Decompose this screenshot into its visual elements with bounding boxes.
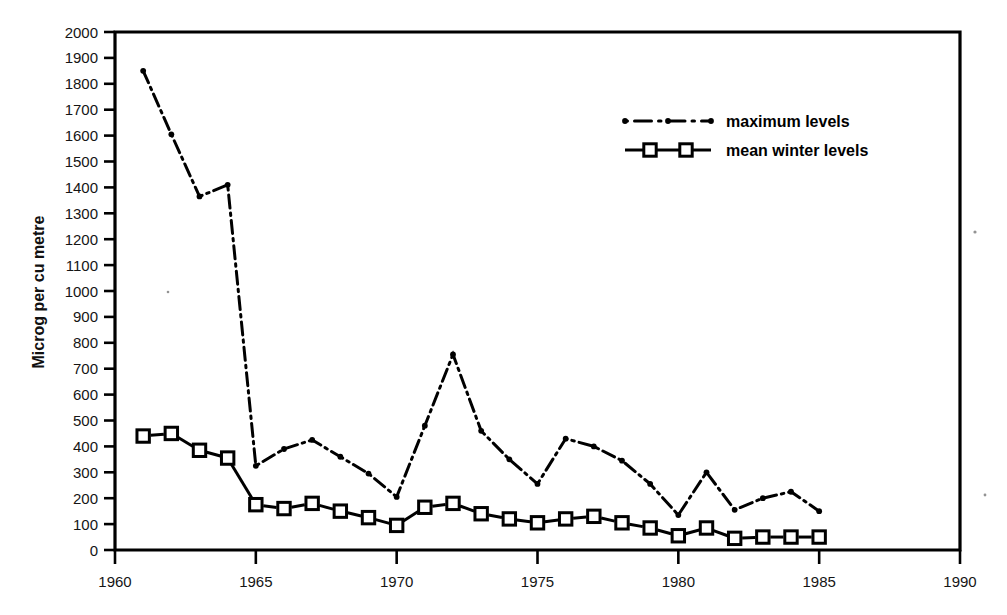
series-mean-winter-levels — [137, 427, 825, 544]
y-tick-label: 1500 — [65, 153, 98, 170]
data-point-marker — [221, 452, 233, 464]
chart-container: 0100200300400500600700800900100011001200… — [0, 0, 1007, 615]
data-point-marker — [559, 513, 571, 525]
data-point-marker — [419, 501, 431, 513]
data-point-marker — [165, 427, 177, 439]
data-point-marker — [390, 519, 402, 531]
plot-frame — [115, 32, 960, 550]
data-point — [450, 352, 456, 358]
data-point-marker — [306, 497, 318, 509]
data-point-marker — [447, 497, 459, 509]
y-tick-label: 500 — [73, 412, 98, 429]
data-point — [281, 446, 287, 452]
data-point — [168, 131, 174, 137]
y-tick-label: 200 — [73, 490, 98, 507]
data-point — [675, 512, 681, 518]
data-point — [732, 507, 738, 513]
data-point — [563, 436, 569, 442]
y-tick-label: 1100 — [66, 257, 98, 274]
x-axis-ticks — [115, 550, 960, 564]
x-tick-label: 1960 — [98, 573, 131, 590]
x-axis-tick-labels: 1960196519701975198019851990 — [98, 573, 976, 590]
chart-legend: maximum levelsmean winter levels — [622, 113, 868, 159]
y-tick-label: 600 — [73, 386, 98, 403]
data-point — [788, 489, 794, 495]
y-tick-label: 300 — [73, 464, 98, 481]
x-tick-label: 1975 — [521, 573, 554, 590]
y-tick-label: 900 — [73, 308, 98, 325]
data-point-marker — [193, 444, 205, 456]
data-point — [394, 494, 400, 500]
y-tick-label: 700 — [73, 360, 98, 377]
data-point — [760, 495, 766, 501]
data-point-marker — [616, 517, 628, 529]
y-tick-label: 1200 — [65, 231, 98, 248]
data-point — [253, 463, 259, 469]
y-tick-label: 2000 — [65, 24, 98, 41]
data-series-group — [137, 68, 825, 545]
y-tick-label: 100 — [73, 516, 98, 533]
data-point-marker — [334, 505, 346, 517]
data-point-marker — [588, 510, 600, 522]
x-tick-label: 1985 — [802, 573, 835, 590]
data-point-marker — [672, 530, 684, 542]
data-point — [197, 194, 203, 200]
data-point-marker — [137, 430, 149, 442]
y-axis-title: Microg per cu metre — [30, 215, 47, 368]
data-point-marker — [785, 531, 797, 543]
data-point — [337, 454, 343, 460]
y-tick-label: 800 — [73, 334, 98, 351]
data-point — [535, 481, 541, 487]
data-point — [506, 456, 512, 462]
scan-artifacts — [167, 230, 987, 496]
x-tick-label: 1965 — [239, 573, 272, 590]
data-point-marker — [728, 532, 740, 544]
data-point — [309, 437, 315, 443]
y-tick-label: 400 — [73, 438, 98, 455]
data-point-marker — [813, 531, 825, 543]
data-point-marker — [700, 522, 712, 534]
data-point — [478, 428, 484, 434]
x-tick-label: 1970 — [380, 573, 413, 590]
y-tick-label: 1900 — [65, 49, 98, 66]
legend-label-maximum-levels: maximum levels — [726, 113, 850, 130]
y-tick-label: 0 — [90, 542, 98, 559]
data-point-marker — [503, 513, 515, 525]
y-tick-label: 1600 — [65, 127, 98, 144]
data-point — [704, 469, 710, 475]
line-chart: 0100200300400500600700800900100011001200… — [0, 0, 1007, 615]
y-tick-label: 1800 — [65, 75, 98, 92]
data-point-marker — [278, 502, 290, 514]
data-point — [816, 508, 822, 514]
series-maximum-levels — [140, 68, 822, 518]
y-tick-label: 1700 — [65, 101, 98, 118]
data-point — [366, 471, 372, 477]
y-tick-label: 1300 — [65, 205, 98, 222]
data-point — [619, 458, 625, 464]
data-point-marker — [644, 522, 656, 534]
y-tick-label: 1400 — [65, 179, 98, 196]
data-point — [647, 481, 653, 487]
data-point-marker — [531, 517, 543, 529]
x-tick-label: 1990 — [943, 573, 976, 590]
data-point — [591, 444, 597, 450]
data-point — [140, 68, 146, 74]
y-tick-label: 1000 — [65, 283, 98, 300]
data-point — [225, 182, 231, 188]
data-point-marker — [362, 511, 374, 523]
data-point — [422, 423, 428, 429]
y-axis-tick-labels: 0100200300400500600700800900100011001200… — [65, 24, 98, 559]
data-point-marker — [250, 498, 262, 510]
y-axis-ticks — [104, 32, 115, 550]
data-point-marker — [757, 531, 769, 543]
x-tick-label: 1980 — [662, 573, 695, 590]
data-point-marker — [475, 508, 487, 520]
legend-label-mean-winter-levels: mean winter levels — [726, 142, 868, 159]
